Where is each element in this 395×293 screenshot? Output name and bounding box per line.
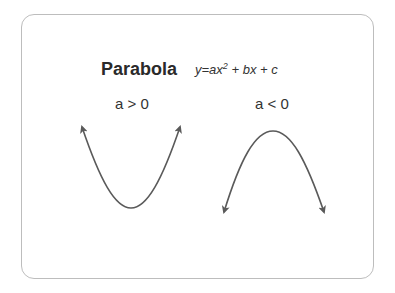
upward-parabola — [82, 127, 180, 208]
downward-parabola — [224, 131, 324, 212]
parabola-curves — [0, 0, 395, 293]
